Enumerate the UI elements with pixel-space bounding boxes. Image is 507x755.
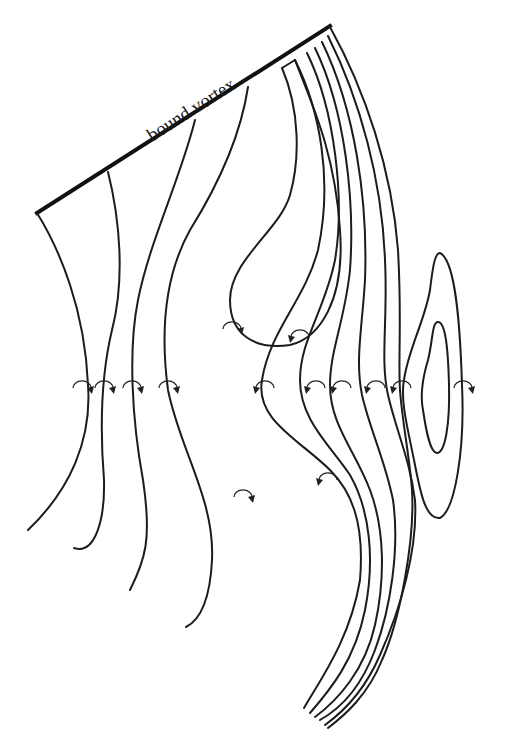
rotation-arrow-icon: [304, 381, 325, 394]
wake-vortex-diagram: bound vortex: [0, 0, 507, 755]
closed-loop-inner: [422, 322, 450, 453]
vortex-line: [130, 120, 195, 590]
rotation-arrow-icon: [253, 381, 274, 394]
rotation-arrow-icon: [73, 381, 94, 394]
rotation-arrow-icon: [364, 381, 385, 394]
rotation-arrow-icon: [288, 330, 309, 343]
vortex-line: [320, 42, 395, 720]
vortex-line: [164, 87, 248, 627]
vortex-line: [74, 172, 120, 549]
rotation-arrow-icon: [316, 473, 337, 486]
rotation-arrow-icon: [223, 322, 244, 335]
rotation-arrow-icon: [95, 381, 116, 394]
vortex-line: [28, 213, 88, 530]
rotation-arrow-icon: [159, 381, 180, 394]
vortex-lines: [28, 27, 415, 728]
rotation-arrow-icon: [330, 381, 351, 394]
rotation-arrow-icon: [454, 381, 475, 394]
rotation-arrow-icon: [234, 490, 255, 503]
